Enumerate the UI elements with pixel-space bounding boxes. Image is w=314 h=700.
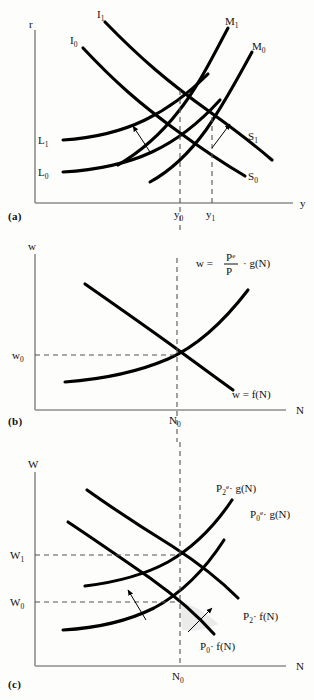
label-S0: S0 (248, 170, 258, 185)
panel-a-y-axis-label: r (29, 18, 33, 30)
tick-W1: W1 (10, 549, 24, 564)
tick-N0-b: N0 (169, 414, 181, 429)
panel-c-y-axis-label: W (28, 458, 39, 470)
panel-a-shift-arrow-right (212, 124, 230, 148)
label-labour-demand: w = f(N) (232, 388, 271, 401)
curve-labour-demand (85, 284, 233, 390)
tick-N0-c: N0 (172, 670, 184, 685)
label-supply-P2e: P2e· g(N) (216, 482, 257, 497)
panel-b: w N w0 N0 w = Pe P · g(N) w = f(N) (b) (0, 232, 314, 442)
tick-w0: w0 (12, 349, 24, 364)
label-supply-P0e: P0e· g(N) (250, 508, 291, 523)
label-M0: M0 (252, 40, 266, 55)
panel-a-x-axis-label: y (300, 197, 306, 209)
tick-y1: y1 (206, 208, 216, 223)
panel-b-x-axis-label: N (296, 404, 304, 416)
label-demand-P0: P0· f(N) (200, 640, 236, 655)
panel-b-letter: (b) (8, 415, 22, 427)
fraction-denominator: P (226, 265, 232, 277)
supply-label-rhs: · g(N) (243, 257, 271, 270)
panel-b-y-axis-label: w (28, 240, 36, 252)
label-L1: L1 (38, 134, 49, 149)
label-L0: L0 (38, 166, 49, 181)
label-I1: I1 (97, 8, 105, 23)
panel-c: W N W1 W0 N0 P2e· g(N) P0e· g(N) P2· f(N… (0, 442, 314, 700)
label-demand-P2: P2· f(N) (243, 610, 279, 625)
fraction-numerator: Pe (226, 251, 235, 263)
svg-text:w =: w = (196, 257, 213, 269)
label-labour-supply: w = Pe P · g(N) (196, 251, 271, 277)
panel-a: r y I1 I0 M1 M0 L1 L0 S1 S0 y0 y1 (a) (0, 0, 314, 232)
tick-y0: y0 (174, 208, 184, 223)
curve-I0 (83, 48, 245, 176)
panel-a-letter: (a) (8, 210, 22, 222)
panel-c-letter: (c) (8, 678, 21, 690)
label-I0: I0 (70, 34, 78, 49)
tick-W0: W0 (10, 596, 24, 611)
panel-c-x-axis-label: N (296, 660, 304, 672)
